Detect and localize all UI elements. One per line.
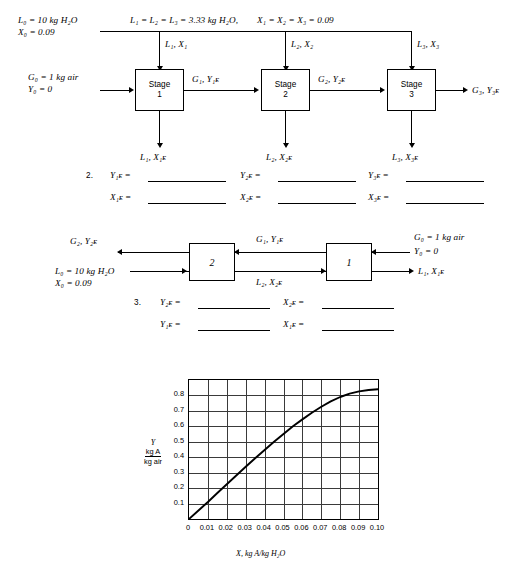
diagram1-connector-label-2: G₂, Y₂ᴇ — [318, 74, 345, 84]
diagram1-gas-inlet-line2: Y₀ = 0 — [28, 84, 52, 94]
question-2-blank-x1e[interactable] — [148, 203, 226, 204]
diagram2-box-1-label: 1 — [347, 257, 352, 268]
chart-y-tick-label: 0.5 — [162, 436, 184, 445]
diagram1-connector-arrow-1 — [254, 87, 259, 93]
diagram2-feed-line — [130, 271, 189, 272]
diagram1-outlet-line — [436, 90, 464, 91]
diagram1-gas-inlet-arrow — [129, 87, 134, 93]
diagram1-outlet-arrow — [463, 87, 468, 93]
diagram1-bottom-line-3 — [411, 111, 412, 145]
diagram2-gas-in-arrow — [371, 249, 376, 255]
diagram2-gas-in-line — [372, 252, 410, 253]
diagram1-outlet-label: G₃, Y₃ᴇ — [472, 85, 499, 95]
chart-y-tick-label: 0.8 — [162, 389, 184, 398]
diagram2-mid-bottom-line — [235, 271, 326, 272]
diagram2-gas-in-line1: G₀ = 1 kg air — [414, 232, 465, 242]
diagram1-stage-1-box[interactable]: Stage 1 — [135, 69, 184, 111]
diagram1-bottom-arrow-2 — [283, 143, 289, 148]
stage-2-number: 2 — [283, 90, 288, 101]
diagram1-feed-label-line2: X₀ = 0.09 — [18, 27, 55, 37]
diagram2-mid-top-line — [235, 252, 326, 253]
question-2-label-y1e: Y₁ᴇ = — [110, 170, 131, 180]
diagram1-drop-line-1 — [159, 31, 160, 68]
diagram1-bottom-label-1: L₁, X₁ᴇ — [140, 152, 166, 162]
question-2-blank-y1e[interactable] — [148, 181, 226, 182]
question-3-label-x1e: X₁ᴇ = — [283, 319, 304, 329]
diagram2-mid-bottom-arrow — [321, 268, 326, 274]
question-2-blank-x3e[interactable] — [406, 203, 484, 204]
stage-2-label: Stage — [275, 80, 296, 91]
diagram2-mid-top-label: G₁, Y₁ᴇ — [256, 234, 283, 244]
question-3-blank-x1e[interactable] — [322, 330, 394, 331]
diagram2-feed-arrow — [182, 268, 187, 274]
diagram1-drop-line-3 — [411, 31, 412, 68]
equilibrium-chart-plot-area — [188, 379, 379, 520]
diagram2-feed-label-line1: L₀ = 10 kg H₂O — [55, 266, 114, 276]
chart-y-tick-label: 0.4 — [162, 451, 184, 460]
chart-y-tick-label: 0.3 — [162, 467, 184, 476]
diagram2-liquid-out-arrow — [409, 268, 414, 274]
diagram1-stage-3-box[interactable]: Stage 3 — [387, 69, 436, 111]
diagram2-mid-top-arrow — [234, 249, 239, 255]
chart-curve-svg — [189, 380, 378, 519]
diagram1-bottom-label-2: L₂, X₂ᴇ — [266, 152, 292, 162]
chart-y-axis-numerator: kg A — [145, 447, 161, 457]
stage-1-label: Stage — [149, 80, 170, 91]
diagram1-drop-label-1: L₁, X₁ — [165, 39, 187, 49]
diagram1-bottom-arrow-1 — [157, 143, 163, 148]
diagram2-liquid-out-line — [372, 271, 410, 272]
question-3-label-x2e: X₂ᴇ = — [283, 297, 304, 307]
question-2-label-x1e: X₁ᴇ = — [110, 192, 131, 202]
stage-3-label: Stage — [401, 80, 422, 91]
question-2-blank-x2e[interactable] — [278, 203, 356, 204]
chart-y-tick-label: 0.7 — [162, 405, 184, 414]
diagram2-gas-out-label: G₂, Y₂ᴇ — [70, 236, 97, 246]
diagram2-feed-label-line2: X₀ = 0.09 — [55, 278, 92, 288]
diagram1-drop-line-2 — [285, 31, 286, 68]
chart-y-tick-label: 0.6 — [162, 420, 184, 429]
question-3-number: 3. — [134, 298, 141, 308]
diagram2-box-2[interactable]: 2 — [189, 243, 235, 281]
question-2-label-x2e: X₂ᴇ = — [240, 192, 261, 202]
diagram1-stage-2-box[interactable]: Stage 2 — [261, 69, 310, 111]
chart-y-tick-label: 0.2 — [162, 482, 184, 491]
diagram1-feed-label-line1: L₀ = 10 kg H₂O — [18, 15, 77, 25]
diagram1-top-note-left: L₁ = L₂ = L₃ = 3.33 kg H₂O, — [130, 15, 238, 25]
diagram1-bottom-label-3: L₃, X₃ᴇ — [392, 152, 418, 162]
question-3-blank-y1e[interactable] — [198, 330, 270, 331]
diagram2-mid-bottom-label: L₂, X₂ᴇ — [256, 277, 282, 287]
question-2-blank-y2e[interactable] — [278, 181, 356, 182]
diagram1-gas-inlet-line — [100, 90, 130, 91]
chart-equilibrium-curve — [189, 389, 378, 519]
question-2-label-y2e: Y₂ᴇ = — [240, 170, 261, 180]
diagram2-liquid-out-label: L₁, X₁ᴇ — [418, 266, 444, 276]
question-2-label-y3e: Y₃ᴇ = — [368, 170, 389, 180]
diagram1-connector-arrow-2 — [380, 87, 385, 93]
question-3-blank-x2e[interactable] — [322, 308, 394, 309]
question-3-blank-y2e[interactable] — [198, 308, 270, 309]
question-3-label-y2e: Y₂ᴇ = — [160, 297, 181, 307]
diagram1-gas-inlet-line1: G₀ = 1 kg air — [28, 72, 79, 82]
stage-3-number: 3 — [409, 90, 414, 101]
diagram1-connector-line-2 — [310, 90, 381, 91]
diagram1-drop-label-3: L₃, X₃ — [417, 39, 439, 49]
diagram1-bottom-line-1 — [159, 111, 160, 145]
diagram2-box-2-label: 2 — [210, 257, 215, 268]
diagram1-connector-line-1 — [184, 90, 255, 91]
question-2-label-x3e: X₃ᴇ = — [368, 192, 389, 202]
question-2-number: 2. — [86, 171, 93, 181]
diagram1-connector-label-1: G₁, Y₁ᴇ — [192, 74, 219, 84]
diagram1-drop-label-2: L₂, X₂ — [291, 39, 313, 49]
diagram1-bottom-arrow-3 — [409, 143, 415, 148]
diagram2-gas-in-line2: Y₀ = 0 — [414, 246, 438, 256]
diagram1-top-note-right: X₁ = X₂ = X₃ = 0.09 — [257, 15, 334, 25]
question-3-label-y1e: Y₁ᴇ = — [160, 319, 181, 329]
chart-x-axis-label: X, kg A/kg H₂O — [236, 549, 285, 558]
question-2-blank-y3e[interactable] — [406, 181, 484, 182]
chart-y-tick-label: 0.1 — [162, 498, 184, 507]
chart-x-tick-label: 0.10 — [364, 523, 390, 532]
diagram2-gas-out-arrow — [117, 249, 122, 255]
diagram1-bottom-line-2 — [285, 111, 286, 145]
diagram1-top-manifold-line — [100, 31, 412, 32]
diagram2-box-1[interactable]: 1 — [326, 243, 372, 281]
